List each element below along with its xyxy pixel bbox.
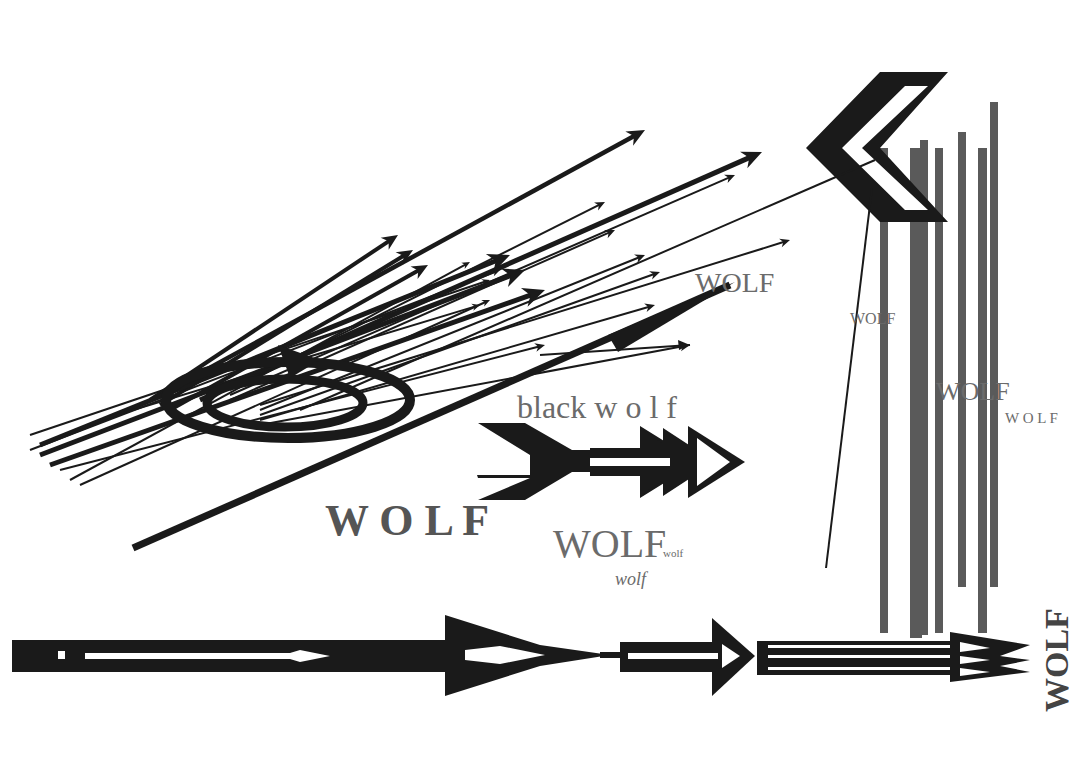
wolf-center-big-text: WOLF	[553, 521, 666, 566]
wolf-artwork-canvas: WOLF WOLF WOLF W O L F black w o l f W O…	[0, 0, 1081, 768]
wolf-bold-spaced-text: W O L F	[325, 496, 489, 545]
wolf-vertical-text: WOLF	[1038, 608, 1075, 712]
wolf-bars-spaced-text: W O L F	[1005, 410, 1058, 426]
black-wolf-text: black w o l f	[517, 389, 677, 425]
wolf-subscript-text: wolf	[663, 547, 684, 559]
wolf-top-right-text: WOLF	[695, 267, 774, 298]
wolf-bars-big-text: WOLF	[936, 377, 1010, 406]
vertical-bar	[990, 102, 998, 587]
wolf-below-text: wolf	[615, 569, 649, 589]
wolf-small-mid-text: WOLF	[850, 310, 895, 327]
vertical-bar	[958, 132, 966, 587]
